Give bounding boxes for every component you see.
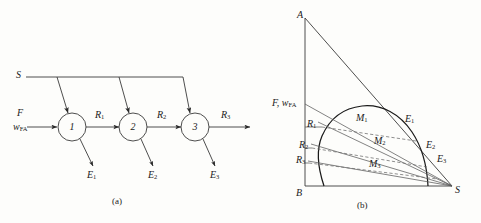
extract-arrow-E3 (203, 139, 215, 166)
solvent-branch-stage-2 (119, 77, 129, 113)
label-point-E2: E2 (426, 140, 435, 151)
figure-svg (0, 0, 481, 223)
stage-label-3: 3 (189, 121, 201, 132)
label-E3-flow: E3 (210, 170, 219, 181)
extract-arrow-E2 (141, 139, 153, 166)
extract-arrow-E1 (80, 139, 93, 166)
label-point-R3: R3 (296, 155, 305, 166)
vertex-label-S: S (455, 185, 460, 195)
label-R1-flow: R1 (95, 110, 104, 121)
caption-panel-a: (a) (112, 196, 122, 206)
label-point-R2: R2 (299, 140, 308, 151)
solvent-branch-stage-3 (183, 77, 190, 113)
label-solvent-S: S (16, 70, 21, 80)
label-E1-flow: E1 (87, 170, 96, 181)
label-E2-flow: E2 (148, 170, 157, 181)
solvent-branch-stage-1 (57, 77, 68, 113)
vertex-label-A: A (297, 10, 303, 20)
label-point-M3: M3 (369, 159, 381, 170)
label-feed-F: F (17, 108, 23, 118)
stage-label-1: 1 (66, 121, 78, 132)
figure-root: S F wFA 1 2 3 R1 R2 R3 E1 E2 E3 (a) A B … (0, 0, 481, 223)
label-feed-composition: wFA (13, 122, 28, 133)
label-point-M2: M2 (374, 136, 386, 147)
vertex-label-B: B (296, 188, 302, 198)
operating-line-R1-to-S (318, 122, 452, 186)
label-R3-flow: R3 (221, 110, 230, 121)
label-point-E3: E3 (437, 154, 446, 165)
label-point-R1: R1 (307, 119, 316, 130)
label-point-E1: E1 (405, 114, 414, 125)
stage-label-2: 2 (127, 121, 139, 132)
label-R2-flow: R2 (157, 110, 166, 121)
label-point-M1: M1 (356, 113, 368, 124)
caption-panel-b: (b) (357, 200, 368, 210)
label-feed-point-F: F, wFA (272, 98, 296, 109)
